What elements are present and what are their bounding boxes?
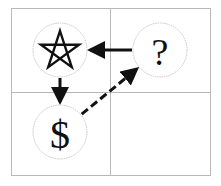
question-mark-icon: ? bbox=[152, 31, 169, 73]
dollar-sign-icon: $ bbox=[50, 112, 70, 157]
edge-dollar-to-question bbox=[82, 69, 137, 114]
node-question: ? bbox=[133, 23, 187, 77]
diagram-canvas: ?$ bbox=[0, 0, 221, 186]
node-dollar: $ bbox=[33, 105, 87, 159]
node-star bbox=[33, 23, 87, 77]
